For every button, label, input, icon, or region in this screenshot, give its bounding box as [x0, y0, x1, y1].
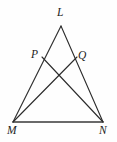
segment-LM — [13, 26, 61, 122]
vertex-label-P: P — [31, 48, 38, 60]
segment-QM — [13, 57, 77, 122]
geometry-figure: L P Q M N — [0, 0, 117, 142]
segment-PN — [42, 57, 103, 122]
segment-LN — [61, 26, 103, 122]
vertex-label-L: L — [57, 6, 63, 18]
vertex-label-N: N — [99, 124, 107, 136]
geometry-diagram — [0, 0, 117, 142]
vertex-label-Q: Q — [78, 49, 86, 61]
vertex-label-M: M — [7, 124, 17, 136]
